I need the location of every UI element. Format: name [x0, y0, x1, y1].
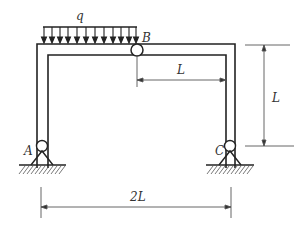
- distributed-load: [42, 27, 139, 43]
- hinge-b: [131, 44, 143, 56]
- dim-span-label: 2L: [129, 190, 146, 204]
- support-c-label: C: [215, 144, 224, 158]
- hinge-b-label: B: [141, 31, 151, 45]
- load-label: q: [76, 9, 84, 23]
- dim-height: [245, 45, 294, 146]
- support-c: [206, 141, 254, 175]
- portal-frame-diagram: q B A: [0, 0, 308, 234]
- dim-height-label: L: [271, 91, 280, 105]
- dim-half-span-label: L: [176, 63, 185, 77]
- support-a-label: A: [23, 144, 33, 158]
- frame: [37, 44, 235, 168]
- diagram-svg: q B A: [0, 0, 308, 234]
